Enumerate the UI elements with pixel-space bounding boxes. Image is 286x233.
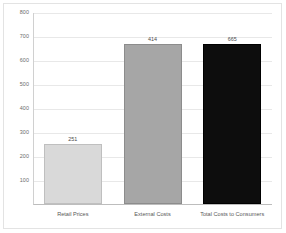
bar-rect <box>44 144 102 204</box>
y-axis-tick-label: 400 <box>20 106 29 111</box>
x-axis-category-label: External Costs <box>134 212 170 218</box>
bar-rect <box>124 44 182 204</box>
y-axis-tick-label: 300 <box>20 130 29 135</box>
y-axis-tick-label: 100 <box>20 178 29 183</box>
y-axis-tick-labels: 800700600500400300200100 <box>0 13 29 205</box>
bar[interactable] <box>203 44 261 204</box>
y-axis-tick-label: 800 <box>20 10 29 15</box>
y-axis-tick-label: 500 <box>20 82 29 87</box>
x-axis-category-labels: Retail PricesExternal CostsTotal Costs t… <box>33 208 272 224</box>
y-axis-tick-label: 700 <box>20 34 29 39</box>
bar-value-label: 251 <box>68 137 77 142</box>
x-axis-category-label: Retail Prices <box>57 212 88 218</box>
y-axis-tick-label: 200 <box>20 154 29 159</box>
bar[interactable] <box>124 44 182 204</box>
y-axis-tick-label: 600 <box>20 58 29 63</box>
bar-value-label: 414 <box>148 37 157 42</box>
bar[interactable] <box>44 144 102 204</box>
bars-layer: 251414665 <box>33 13 272 205</box>
bar-value-label: 665 <box>228 37 237 42</box>
chart-screenshot: 800700600500400300200100 251414665 Retai… <box>0 0 286 233</box>
x-axis-category-label: Total Costs to Consumers <box>200 212 264 218</box>
bar-rect <box>203 44 261 204</box>
